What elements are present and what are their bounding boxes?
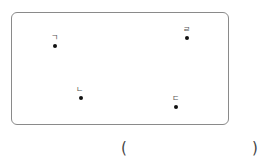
point-dot-icon [174,105,178,109]
point-label: ㄹ [183,26,190,34]
answer-blank[interactable] [134,139,250,157]
point-dot-icon [53,44,57,48]
point-label: ㄱ [51,34,58,42]
diagram-frame [11,12,229,125]
point-label: ㄴ [76,86,83,94]
answer-close-paren: ) [252,139,258,157]
point-label: ㄷ [172,95,179,103]
point-dot-icon [185,36,189,40]
point-dot-icon [79,96,83,100]
answer-open-paren: ( [121,139,127,157]
